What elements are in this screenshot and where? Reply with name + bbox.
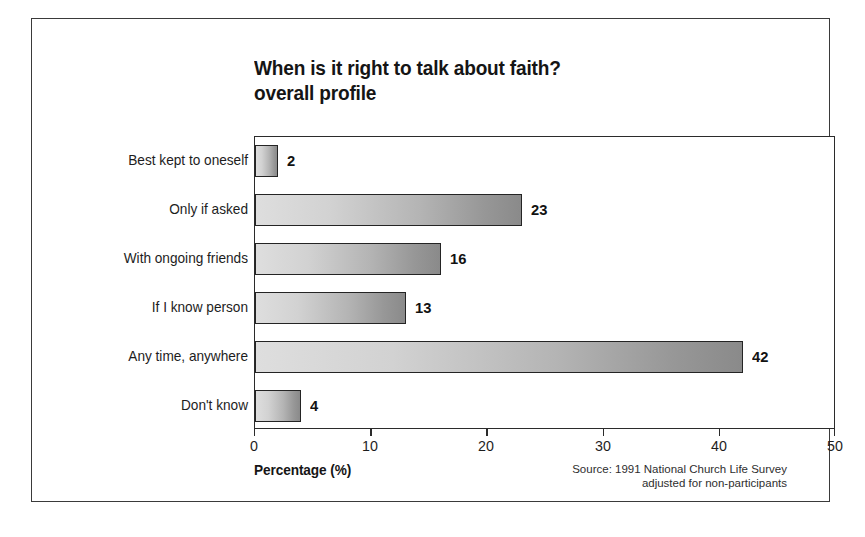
category-label: With ongoing friends	[83, 251, 248, 266]
x-tick-label: 0	[250, 438, 258, 453]
x-tick-mark	[254, 429, 255, 436]
plot-area: 2231613424	[254, 136, 835, 429]
x-tick-mark	[603, 429, 604, 436]
x-tick-label: 50	[827, 438, 843, 453]
chart-title-line2: overall profile	[254, 80, 775, 105]
bar-value-label: 2	[287, 153, 295, 169]
bar-row: 42	[255, 341, 834, 373]
bar-value-label: 16	[450, 251, 466, 267]
x-tick-label: 10	[362, 438, 378, 453]
bar-row: 4	[255, 390, 834, 422]
bar	[255, 194, 522, 226]
category-label: Don't know	[83, 398, 248, 413]
bar-row: 2	[255, 145, 834, 177]
source-note-line1: Source: 1991 National Church Life Survey	[447, 462, 787, 476]
bar	[255, 243, 441, 275]
x-tick-label: 20	[478, 438, 494, 453]
x-tick-mark	[719, 429, 720, 436]
category-axis-labels: Best kept to oneselfOnly if askedWith on…	[72, 136, 248, 429]
source-note-line2: adjusted for non-participants	[447, 476, 787, 490]
source-note: Source: 1991 National Church Life Survey…	[447, 462, 787, 491]
category-label: Any time, anywhere	[83, 349, 248, 364]
bar	[255, 292, 406, 324]
x-tick-mark	[486, 429, 487, 436]
bar	[255, 390, 301, 422]
x-tick-label: 30	[595, 438, 611, 453]
bar-value-label: 23	[531, 202, 547, 218]
chart-title: When is it right to talk about faith? ov…	[254, 55, 775, 105]
x-tick-mark	[370, 429, 371, 436]
bar-row: 23	[255, 194, 834, 226]
bar-row: 16	[255, 243, 834, 275]
x-tick-mark	[834, 429, 835, 436]
bar	[255, 145, 278, 177]
figure-frame: When is it right to talk about faith? ov…	[31, 18, 830, 502]
category-label: If I know person	[83, 300, 248, 315]
x-tick-label: 40	[711, 438, 727, 453]
bar-value-label: 13	[415, 300, 431, 316]
bar-row: 13	[255, 292, 834, 324]
bar	[255, 341, 743, 373]
category-label: Only if asked	[83, 202, 248, 217]
bar-value-label: 4	[310, 398, 318, 414]
x-axis-title: Percentage (%)	[254, 462, 351, 478]
category-label: Best kept to oneself	[83, 153, 248, 168]
chart-title-line1: When is it right to talk about faith?	[254, 55, 775, 80]
bar-value-label: 42	[752, 349, 768, 365]
